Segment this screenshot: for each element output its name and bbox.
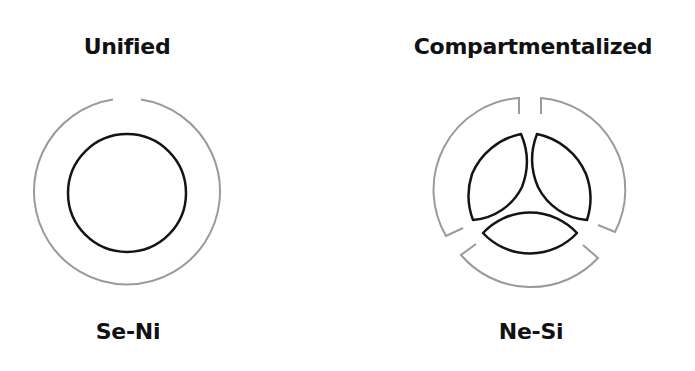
outer-segment-right [541,98,625,232]
unified-outer-ring [34,100,220,285]
compartmentalized-diagram [434,98,626,287]
unified-diagram [34,100,220,285]
inner-lens-top-right [532,134,590,220]
diagram-canvas [0,0,695,371]
inner-lens-top-left [469,134,527,220]
inner-lens-bottom [483,212,577,253]
outer-segment-bottom [461,244,598,287]
unified-inner-circle [68,134,186,252]
